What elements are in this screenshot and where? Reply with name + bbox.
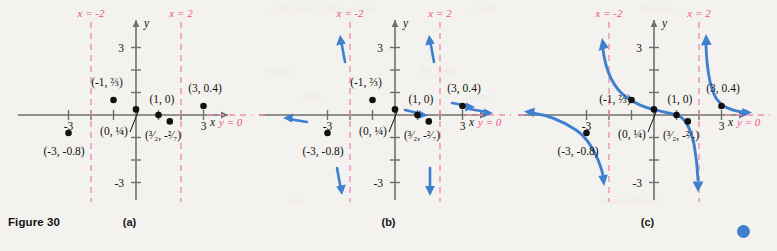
x-axis-label: x — [727, 116, 734, 128]
point-label-neg1: (-1, ⅔) — [599, 93, 631, 106]
point-marker — [133, 106, 140, 113]
y-tick-label-neg3: -3 — [632, 177, 642, 189]
panel-b-plot: -3 3 3 -3 y x y = 0 x = -2 x = 2 (-3, -0… — [259, 0, 518, 216]
point-label-neg3: (-3, -0.8) — [43, 145, 84, 158]
y-tick-label-neg3: -3 — [114, 177, 124, 189]
arrow-up-right-of-x-2 — [425, 35, 435, 62]
axes-group-c — [518, 20, 746, 200]
panel-b: -3 3 3 -3 y x y = 0 x = -2 x = 2 (-3, -0… — [259, 0, 518, 251]
point-marker — [426, 118, 433, 125]
y-axis-label: y — [661, 17, 668, 30]
point-label-three: (3, 0.4) — [188, 82, 222, 95]
point-marker — [392, 106, 399, 113]
asymptote-label-x-minus-2: x = -2 — [77, 7, 105, 19]
arrowhead-middle-branch-down — [693, 182, 704, 192]
branch-right-curve — [706, 46, 742, 112]
arrowhead-right-branch-up — [701, 34, 712, 46]
y-axis-arrowhead — [651, 20, 658, 27]
figure-label: Figure 30 — [8, 216, 128, 228]
point-marker — [369, 97, 376, 104]
x-axis-label: x — [209, 116, 216, 128]
point-label-three-halves: (³⁄₂, -²⁄₇) — [663, 129, 699, 142]
y-tick-label-3: 3 — [377, 42, 383, 54]
panel-c: -3 3 3 -3 y x y = 0 x = -2 x = 2 (-3, -0… — [518, 0, 777, 251]
figure-30-root: in the graph of R(x) and soit mustbehavi… — [0, 0, 777, 251]
point-label-origin: (0, ¼) — [100, 125, 128, 138]
point-marker — [459, 103, 466, 110]
asymptote-label-x-minus-2: x = -2 — [595, 7, 623, 19]
asymptote-group-a — [91, 22, 252, 202]
point-label-three: (3, 0.4) — [447, 82, 481, 95]
point-label-origin: (0, ¼) — [359, 125, 387, 138]
x-tick-label-3: 3 — [201, 120, 207, 132]
horizontal-asymptote-label: y = 0 — [218, 116, 243, 128]
x-tick-label-3: 3 — [460, 120, 466, 132]
y-axis-arrowhead — [133, 20, 140, 27]
point-marker — [651, 106, 658, 113]
point-label-three-halves: (³⁄₂, -²⁄₇) — [145, 129, 181, 142]
graph-branches-c — [532, 46, 742, 180]
y-tick-label-3: 3 — [118, 42, 124, 54]
arrowhead-middle-branch-up — [599, 38, 609, 51]
point-marker — [155, 112, 162, 119]
panel-a-plot: -3 3 3 -3 y x y = 0 x = -2 x = 2 (-3, -0… — [0, 0, 259, 216]
y-axis-arrowhead — [392, 20, 399, 27]
panel-a: -3 3 3 -3 y x y = 0 x = -2 x = 2 (-3, -0… — [0, 0, 259, 251]
branch-arrowheads-c — [524, 34, 752, 192]
point-marker — [673, 112, 680, 119]
y-tick-label-neg3: -3 — [373, 177, 383, 189]
point-marker — [685, 118, 692, 125]
horizontal-asymptote-label: y = 0 — [477, 116, 502, 128]
point-marker — [324, 130, 331, 137]
asymptote-label-x-2: x = 2 — [427, 7, 452, 19]
x-tick-label-3: 3 — [719, 120, 725, 132]
point-label-neg3: (-3, -0.8) — [557, 145, 598, 158]
asymptote-label-x-2: x = 2 — [168, 7, 193, 19]
panel-c-plot: -3 3 3 -3 y x y = 0 x = -2 x = 2 (-3, -0… — [518, 0, 777, 216]
point-marker — [200, 103, 207, 110]
asymptote-label-x-2: x = 2 — [686, 7, 711, 19]
y-axis-label: y — [402, 17, 409, 30]
arrowhead-left-branch-down — [598, 174, 607, 186]
y-tick-label-3: 3 — [636, 42, 642, 54]
point-label-origin: (0, ¼) — [618, 128, 646, 141]
y-axis-label: y — [143, 17, 150, 30]
asymptote-label-x-minus-2: x = -2 — [336, 7, 364, 19]
point-label-one-zero: (1, 0) — [668, 93, 693, 106]
point-label-one-zero: (1, 0) — [409, 93, 434, 106]
point-marker — [583, 130, 590, 137]
asymptote-group-b — [259, 22, 511, 202]
point-marker — [167, 118, 174, 125]
asymptote-group-c — [518, 22, 770, 202]
point-label-one-zero: (1, 0) — [150, 93, 175, 106]
point-label-neg1: (-1, ⅔) — [91, 76, 123, 89]
arrow-down-left-of-x-minus-2 — [336, 168, 346, 195]
x-axis-label: x — [468, 116, 475, 128]
point-marker — [718, 103, 725, 110]
point-label-three-halves: (³⁄₂, -²⁄₇) — [404, 129, 440, 142]
axes-group-b — [259, 20, 487, 200]
point-marker — [110, 97, 117, 104]
branch-left-curve — [532, 113, 603, 175]
blue-bullet-marker — [737, 225, 750, 238]
point-label-three: (3, 0.4) — [706, 82, 740, 95]
arrow-down-right-of-x-2 — [425, 168, 435, 196]
arrow-up-left-of-x-minus-2 — [336, 35, 346, 62]
point-marker — [65, 130, 72, 137]
point-label-neg3: (-3, -0.8) — [302, 145, 343, 158]
panel-caption-b: (b) — [259, 216, 518, 228]
point-marker — [414, 112, 421, 119]
horizontal-asymptote-label: y = 0 — [736, 116, 761, 128]
point-label-neg1: (-1, ⅔) — [350, 76, 382, 89]
